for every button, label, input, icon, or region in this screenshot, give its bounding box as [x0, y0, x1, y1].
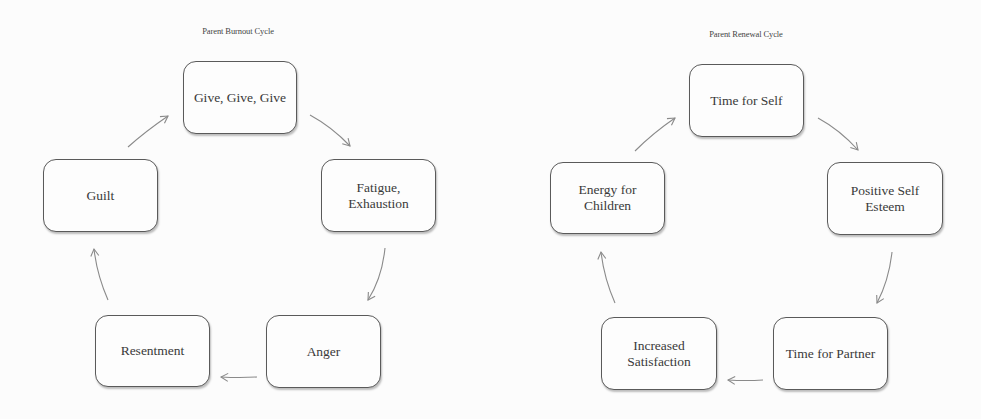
- node-guilt: Guilt: [43, 159, 158, 232]
- node-time-for-self: Time for Self: [689, 64, 804, 137]
- diagram-title: Parent Burnout Cycle: [202, 26, 274, 36]
- node-resentment: Resentment: [95, 315, 210, 387]
- parent-burnout-cycle-diagram: Parent Burnout Cycle Give, Give, Give Fa…: [0, 0, 490, 419]
- node-energy-for-children: Energy for Children: [550, 162, 665, 234]
- parent-renewal-cycle-diagram: Parent Renewal Cycle Time for Self Posit…: [490, 0, 981, 419]
- node-positive-self-esteem: Positive Self Esteem: [827, 162, 943, 235]
- node-give-give-give: Give, Give, Give: [183, 61, 297, 134]
- node-fatigue-exhaustion: Fatigue, Exhaustion: [321, 159, 436, 232]
- node-time-for-partner: Time for Partner: [773, 317, 888, 390]
- node-increased-satisfaction: Increased Satisfaction: [601, 317, 717, 390]
- node-anger: Anger: [266, 315, 381, 388]
- diagram-title: Parent Renewal Cycle: [709, 29, 783, 39]
